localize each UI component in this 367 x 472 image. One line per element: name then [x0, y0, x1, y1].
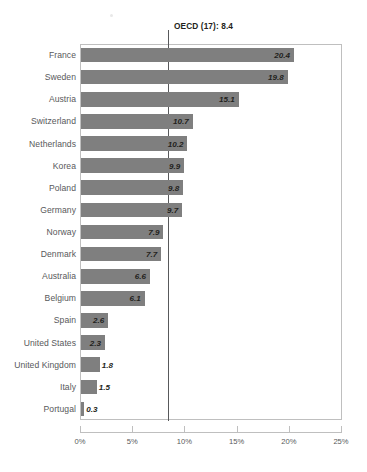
bar-fill: 7.9: [81, 225, 163, 240]
bar-norway: 7.9: [81, 225, 163, 240]
bar-fill: 0.3: [81, 402, 84, 417]
bar-row: United Kingdom1.8: [0, 354, 367, 376]
oecd-reference-label: OECD (17): 8.4: [174, 21, 233, 31]
category-label-netherlands: Netherlands: [0, 139, 76, 149]
category-label-austria: Austria: [0, 94, 76, 104]
bar-denmark: 7.7: [81, 247, 161, 262]
x-tick-mark: [132, 426, 133, 432]
bar-value-label: 9.9: [169, 161, 180, 170]
bar-row: Italy1.5: [0, 376, 367, 398]
bar-row: Sweden19.8: [0, 66, 367, 88]
bar-united-kingdom: 1.8: [81, 357, 100, 372]
bar-value-label: 0.3: [86, 404, 97, 413]
category-label-germany: Germany: [0, 205, 76, 215]
bar-row: France20.4: [0, 44, 367, 66]
bar-switzerland: 10.7: [81, 114, 193, 129]
bar-australia: 6.6: [81, 269, 150, 284]
bar-value-label: 2.6: [93, 316, 104, 325]
image-artifact-speck: [110, 14, 113, 17]
bar-value-label: 1.5: [99, 382, 110, 391]
bar-value-label: 6.6: [135, 272, 146, 281]
bar-row: Germany9.7: [0, 199, 367, 221]
bar-value-label: 1.8: [102, 360, 113, 369]
x-tick-mark: [80, 426, 81, 432]
x-tick-mark: [341, 426, 342, 432]
x-tick-label: 20%: [281, 437, 296, 446]
category-label-italy: Italy: [0, 382, 76, 392]
bar-value-label: 10.2: [168, 139, 184, 148]
x-axis-line: [80, 432, 342, 433]
category-label-korea: Korea: [0, 161, 76, 171]
bar-value-label: 9.7: [167, 205, 178, 214]
bar-row: Switzerland10.7: [0, 110, 367, 132]
bar-netherlands: 10.2: [81, 136, 187, 151]
category-label-united-states: United States: [0, 338, 76, 348]
bar-value-label: 7.9: [148, 227, 159, 236]
x-tick-label: 25%: [333, 437, 348, 446]
bar-fill: 9.8: [81, 180, 183, 195]
bar-portugal: 0.3: [81, 402, 84, 417]
bar-fill: 20.4: [81, 48, 294, 63]
x-tick-mark: [289, 426, 290, 432]
category-label-switzerland: Switzerland: [0, 116, 76, 126]
bar-row: Netherlands10.2: [0, 132, 367, 154]
bar-sweden: 19.8: [81, 70, 288, 85]
bar-value-label: 7.7: [146, 250, 157, 259]
x-tick-label: 5%: [127, 437, 138, 446]
category-label-france: France: [0, 50, 76, 60]
x-tick-label: 10%: [177, 437, 192, 446]
bar-value-label: 15.1: [219, 95, 235, 104]
bar-fill: 6.6: [81, 269, 150, 284]
x-tick-label: 15%: [229, 437, 244, 446]
bar-row: Denmark7.7: [0, 243, 367, 265]
bar-fill: 10.7: [81, 114, 193, 129]
bar-value-label: 9.8: [168, 183, 179, 192]
bar-spain: 2.6: [81, 313, 108, 328]
bar-france: 20.4: [81, 48, 294, 63]
bar-value-label: 20.4: [274, 51, 290, 60]
bar-korea: 9.9: [81, 158, 184, 173]
x-tick-mark: [237, 426, 238, 432]
category-label-australia: Australia: [0, 271, 76, 281]
bar-fill: 1.5: [81, 380, 97, 395]
bar-row: Spain2.6: [0, 309, 367, 331]
bar-fill: 2.6: [81, 313, 108, 328]
bar-fill: 9.9: [81, 158, 184, 173]
category-label-spain: Spain: [0, 315, 76, 325]
bar-fill: 1.8: [81, 357, 100, 372]
bar-fill: 7.7: [81, 247, 161, 262]
bar-poland: 9.8: [81, 180, 183, 195]
bar-value-label: 19.8: [268, 73, 284, 82]
bar-belgium: 6.1: [81, 291, 145, 306]
category-label-poland: Poland: [0, 183, 76, 193]
bar-rows-container: France20.4Sweden19.8Austria15.1Switzerla…: [0, 44, 367, 420]
bar-austria: 15.1: [81, 92, 239, 107]
bar-row: United States2.3: [0, 332, 367, 354]
bar-row: Poland9.8: [0, 177, 367, 199]
bar-value-label: 6.1: [129, 294, 140, 303]
bar-fill: 15.1: [81, 92, 239, 107]
bar-row: Australia6.6: [0, 265, 367, 287]
category-label-portugal: Portugal: [0, 404, 76, 414]
bar-fill: 10.2: [81, 136, 187, 151]
category-label-norway: Norway: [0, 227, 76, 237]
bar-row: Belgium6.1: [0, 287, 367, 309]
bar-fill: 9.7: [81, 203, 182, 218]
bar-value-label: 2.3: [90, 338, 101, 347]
bar-value-label: 10.7: [173, 117, 189, 126]
category-label-denmark: Denmark: [0, 249, 76, 259]
bar-fill: 19.8: [81, 70, 288, 85]
bar-chart: OECD (17): 8.4 France20.4Sweden19.8Austr…: [0, 0, 367, 472]
bar-germany: 9.7: [81, 203, 182, 218]
bar-row: Austria15.1: [0, 88, 367, 110]
category-label-united-kingdom: United Kingdom: [0, 360, 76, 370]
bar-united-states: 2.3: [81, 335, 105, 350]
category-label-sweden: Sweden: [0, 72, 76, 82]
x-tick-label: 0%: [75, 437, 86, 446]
x-tick-mark: [184, 426, 185, 432]
category-label-belgium: Belgium: [0, 293, 76, 303]
bar-row: Norway7.9: [0, 221, 367, 243]
bar-row: Korea9.9: [0, 155, 367, 177]
bar-row: Portugal0.3: [0, 398, 367, 420]
bar-fill: 6.1: [81, 291, 145, 306]
